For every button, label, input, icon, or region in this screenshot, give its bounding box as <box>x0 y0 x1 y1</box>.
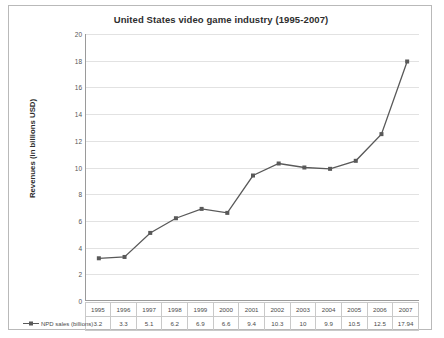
data-point-marker <box>123 255 127 259</box>
y-axis-tick-label: 20 <box>75 31 82 38</box>
data-point-marker <box>405 60 409 64</box>
table-value-cell: 17.94 <box>393 317 419 331</box>
table-value-cell: 9.9 <box>316 317 342 331</box>
table-value-cell: 10.3 <box>264 317 290 331</box>
series-line-npd-sales <box>86 34 419 300</box>
table-column-header: 2005 <box>341 303 367 317</box>
table-column-header: 1995 <box>85 303 111 317</box>
table-column-header: 2001 <box>239 303 265 317</box>
chart-title: United States video game industry (1995-… <box>9 14 433 25</box>
data-point-marker <box>379 132 383 136</box>
data-point-marker <box>277 161 281 165</box>
plot-area: 02468101214161820 <box>85 34 419 301</box>
data-point-marker <box>174 216 178 220</box>
table-value-cell: 6.2 <box>162 317 188 331</box>
table-column-header: 2000 <box>213 303 239 317</box>
table-column-header: 1998 <box>162 303 188 317</box>
data-point-marker <box>225 211 229 215</box>
data-point-marker <box>354 159 358 163</box>
table-value-cell: 9.4 <box>239 317 265 331</box>
y-axis-tick-label: 8 <box>78 191 82 198</box>
table-value-cell: 6.6 <box>213 317 239 331</box>
data-point-marker <box>148 231 152 235</box>
table-column-header: 1997 <box>136 303 162 317</box>
chart-figure: United States video game industry (1995-… <box>8 5 432 330</box>
table-value-cell: 6.9 <box>188 317 214 331</box>
y-axis-tick-label: 2 <box>78 271 82 278</box>
y-axis-tick-label: 18 <box>75 57 82 64</box>
table-value-cell: 12.5 <box>367 317 393 331</box>
y-axis-tick-label: 16 <box>75 84 82 91</box>
table-row: NPD sales (billions) 3.23.35.16.26.96.69… <box>23 317 419 331</box>
y-axis-tick-label: 4 <box>78 244 82 251</box>
table-column-header: 2004 <box>316 303 342 317</box>
data-point-marker <box>328 167 332 171</box>
table-value-cell: 5.1 <box>136 317 162 331</box>
table-value-cell: 10 <box>290 317 316 331</box>
table-column-header: 2003 <box>290 303 316 317</box>
legend-label: NPD sales (billions) <box>41 320 93 326</box>
legend-entry-npd-sales: NPD sales (billions) <box>23 317 85 331</box>
data-point-marker <box>302 166 306 170</box>
table-value-cell: 3.3 <box>111 317 137 331</box>
table-value-cell: 10.5 <box>341 317 367 331</box>
data-point-marker <box>200 207 204 211</box>
table-corner-cell <box>23 303 85 317</box>
y-axis-tick-label: 6 <box>78 217 82 224</box>
table-column-header: 1999 <box>188 303 214 317</box>
table-column-header: 2007 <box>393 303 419 317</box>
data-table: 1995199619971998199920002001200220032004… <box>23 302 419 331</box>
y-axis-tick-label: 12 <box>75 137 82 144</box>
table-column-header: 1996 <box>111 303 137 317</box>
data-point-marker <box>97 256 101 260</box>
legend-line-marker-icon <box>23 320 39 328</box>
table-column-header: 2002 <box>264 303 290 317</box>
table-header-row: 1995199619971998199920002001200220032004… <box>23 303 419 317</box>
y-axis-tick-label: 14 <box>75 111 82 118</box>
series-polyline <box>99 62 407 259</box>
table-column-header: 2006 <box>367 303 393 317</box>
data-point-marker <box>251 174 255 178</box>
y-axis-title: Revenues (in billions USD) <box>28 64 37 234</box>
y-axis-tick-label: 10 <box>75 164 82 171</box>
